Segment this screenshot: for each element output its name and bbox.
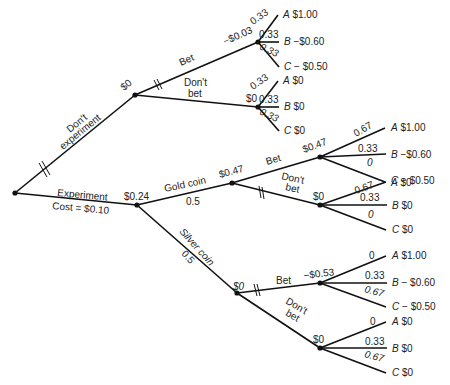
svg-text:B − $0.60: B − $0.60 (392, 277, 436, 288)
outcome-top-dontbet-c: C $0 (284, 125, 306, 136)
prob-label: 0.67 (352, 119, 375, 138)
prob-label: 0.33 (248, 6, 271, 26)
prob-label: 0.67 (363, 283, 385, 299)
no-experiment-value: $0 (118, 77, 134, 93)
svg-text:A $0: A $0 (390, 177, 412, 188)
outcome-gold-bet-b: B −$0.60 (391, 149, 432, 160)
silver-bet-label: Bet (276, 275, 291, 286)
svg-text:B −$0.60: B −$0.60 (284, 36, 325, 47)
gold-bet-value: $0.47 (301, 136, 329, 155)
svg-text:A $0: A $0 (391, 316, 413, 327)
svg-text:B $0: B $0 (392, 200, 413, 211)
outcome-silver-dontbet-c: C $0 (392, 367, 414, 378)
gold-dont-bet-label-2: bet (285, 181, 301, 195)
outcome-top-dontbet-a: A $0 (282, 75, 304, 86)
experiment-cost-label: Cost = $0.10 (52, 200, 110, 216)
prob-label: 0 (369, 250, 375, 261)
silver-coin-label: Silver coin (178, 226, 217, 268)
svg-text:B $0: B $0 (284, 101, 305, 112)
silver-dont-bet-value: $0 (313, 334, 325, 345)
prob-label: 0.33 (259, 29, 279, 40)
silver-bet-chance-node (317, 280, 322, 285)
svg-text:C − $0.50: C − $0.50 (392, 301, 436, 312)
edge-silver-dont-bet (237, 293, 320, 348)
svg-text:B −$0.60: B −$0.60 (391, 149, 432, 160)
experiment-chance-node (134, 202, 139, 207)
gold-coin-prob: 0.5 (186, 196, 200, 207)
svg-text:C $0: C $0 (392, 224, 414, 235)
outcome-silver-dontbet-b: B $0 (392, 343, 413, 354)
top-bet-value: −$0.03 (221, 24, 254, 47)
decision-tree-diagram: Don't experiment Experiment Cost = $0.10… (0, 0, 450, 385)
outcome-top-bet-a: A $1.00 (282, 9, 318, 20)
gold-bet-chance-node (317, 154, 322, 159)
top-dont-bet-label-1: Don't (184, 77, 207, 88)
prob-label: 0 (368, 209, 374, 220)
svg-text:C $0: C $0 (284, 125, 306, 136)
svg-text:A $1.00: A $1.00 (390, 122, 426, 133)
prob-label: 0.33 (365, 336, 385, 347)
gold-dont-bet-chance-node (317, 202, 322, 207)
gold-dont-bet-value: $0 (313, 191, 325, 202)
prob-label: 0.33 (248, 71, 271, 91)
prob-label: 0.33 (360, 192, 380, 203)
svg-text:A $1.00: A $1.00 (391, 250, 427, 261)
prob-label: 0.67 (363, 348, 385, 364)
prob-label: 0 (367, 157, 373, 168)
gold-bet-label: Bet (264, 152, 282, 167)
prob-label: 0.33 (358, 143, 378, 154)
svg-text:A $1.00: A $1.00 (282, 9, 318, 20)
outcome-gold-dontbet-b: B $0 (392, 200, 413, 211)
outcome-silver-dontbet-a: A $0 (391, 316, 413, 327)
top-bet-chance-node (255, 39, 260, 44)
top-bet-label: Bet (177, 52, 195, 68)
silver-value: $0 (232, 281, 245, 292)
outcome-top-dontbet-b: B $0 (284, 101, 305, 112)
svg-text:A $0: A $0 (282, 75, 304, 86)
outcome-gold-bet-a: A $1.00 (390, 122, 426, 133)
prob-label: 0.33 (259, 94, 279, 105)
prob-label: 0.33 (258, 106, 281, 124)
gold-decision-node (229, 180, 234, 185)
outcome-gold-dontbet-a: A $0 (390, 177, 412, 188)
silver-dont-bet-chance-node (317, 345, 322, 350)
outcome-silver-bet-c: C − $0.50 (392, 301, 436, 312)
prune-mark-gold-dont-bet (259, 186, 264, 199)
svg-text:C − $0.50: C − $0.50 (284, 61, 328, 72)
prob-label: 0.33 (365, 270, 385, 281)
outcome-top-bet-c: C − $0.50 (284, 61, 328, 72)
no-experiment-decision-node (132, 92, 137, 97)
outcome-top-bet-b: B −$0.60 (284, 36, 325, 47)
outcome-silver-bet-a: A $1.00 (391, 250, 427, 261)
experiment-value: $0.24 (124, 191, 149, 202)
top-dont-bet-value: $0 (246, 93, 258, 104)
outcome-silver-bet-b: B − $0.60 (392, 277, 436, 288)
prob-label: 0 (370, 316, 376, 327)
edge-dont-experiment (15, 95, 135, 193)
root-decision-node (12, 190, 17, 195)
outcome-gold-dontbet-c: C $0 (392, 224, 414, 235)
svg-text:B $0: B $0 (392, 343, 413, 354)
top-dont-bet-chance-node (255, 104, 260, 109)
edge-gold-dont-bet (232, 183, 320, 205)
top-dont-bet-label-2: bet (188, 88, 202, 99)
gold-value: $0.47 (218, 163, 245, 180)
svg-text:C $0: C $0 (392, 367, 414, 378)
